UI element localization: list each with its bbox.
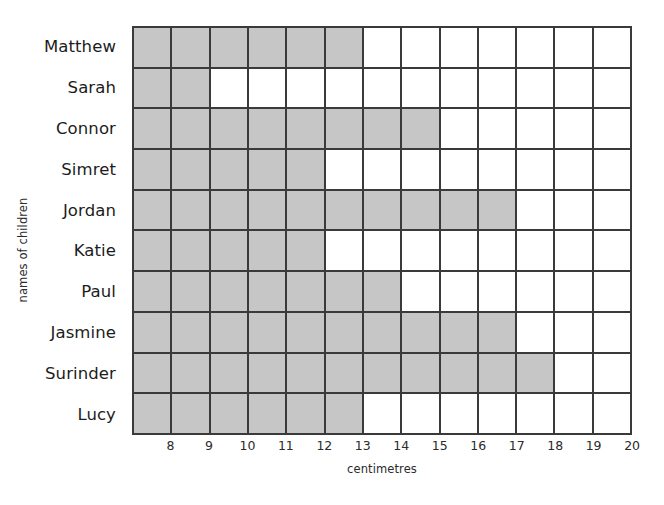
bar-segment-cell	[287, 150, 325, 191]
bar-segment-cell	[134, 272, 172, 313]
chart-row	[134, 69, 632, 110]
bar-segment-cell	[287, 394, 325, 435]
bar-segment-cell	[249, 354, 287, 395]
bar-segment-cell	[249, 191, 287, 232]
empty-grid-cell	[402, 69, 440, 110]
x-axis-tick: 20	[594, 438, 632, 458]
bar-segment-cell	[172, 109, 210, 150]
bar-segment-cell	[326, 109, 364, 150]
bar-segment-cell	[134, 191, 172, 232]
bar-segment-cell	[441, 354, 479, 395]
row-label: Sarah	[0, 67, 124, 108]
empty-grid-cell	[517, 69, 555, 110]
empty-grid-cell	[555, 28, 593, 69]
bar-segment-cell	[364, 191, 402, 232]
chart-row	[134, 191, 632, 232]
bar-segment-cell	[364, 313, 402, 354]
empty-grid-cell	[479, 28, 517, 69]
bar-segment-cell	[326, 354, 364, 395]
bar-segment-cell	[287, 231, 325, 272]
x-axis-tick: 8	[132, 438, 170, 458]
bar-segment-cell	[326, 28, 364, 69]
bar-segment-cell	[287, 28, 325, 69]
bar-segment-cell	[402, 191, 440, 232]
empty-grid-cell	[364, 28, 402, 69]
bar-segment-cell	[211, 313, 249, 354]
empty-grid-cell	[594, 313, 632, 354]
empty-grid-cell	[594, 394, 632, 435]
row-label: Simret	[0, 149, 124, 190]
bar-segment-cell	[134, 394, 172, 435]
empty-grid-cell	[479, 150, 517, 191]
bar-segment-cell	[172, 231, 210, 272]
empty-grid-cell	[441, 231, 479, 272]
empty-grid-cell	[517, 313, 555, 354]
empty-grid-cell	[555, 109, 593, 150]
empty-grid-cell	[326, 231, 364, 272]
empty-grid-cell	[441, 150, 479, 191]
bar-segment-cell	[249, 150, 287, 191]
bar-segment-cell	[211, 109, 249, 150]
empty-grid-cell	[479, 69, 517, 110]
empty-grid-cell	[517, 109, 555, 150]
empty-grid-cell	[402, 394, 440, 435]
empty-grid-cell	[364, 231, 402, 272]
bar-segment-cell	[479, 313, 517, 354]
bar-segment-cell	[479, 354, 517, 395]
chart-row	[134, 272, 632, 313]
bar-segment-cell	[134, 313, 172, 354]
empty-grid-cell	[555, 231, 593, 272]
empty-grid-cell	[326, 69, 364, 110]
empty-grid-cell	[517, 272, 555, 313]
bar-segment-cell	[134, 354, 172, 395]
bar-segment-cell	[441, 313, 479, 354]
chart-row	[134, 28, 632, 69]
x-axis-tick: 16	[440, 438, 478, 458]
empty-grid-cell	[479, 272, 517, 313]
empty-grid-cell	[441, 272, 479, 313]
y-axis-category-labels: MatthewSarahConnorSimretJordanKatiePaulJ…	[0, 26, 124, 435]
bar-segment-cell	[441, 191, 479, 232]
empty-grid-cell	[479, 394, 517, 435]
bar-segment-cell	[134, 28, 172, 69]
empty-grid-cell	[441, 28, 479, 69]
empty-grid-cell	[326, 150, 364, 191]
bar-segment-cell	[249, 231, 287, 272]
empty-grid-cell	[441, 394, 479, 435]
bar-segment-cell	[402, 109, 440, 150]
x-axis-tick: 15	[401, 438, 439, 458]
bar-segment-cell	[172, 272, 210, 313]
bar-segment-cell	[172, 191, 210, 232]
bar-segment-cell	[326, 191, 364, 232]
empty-grid-cell	[517, 150, 555, 191]
empty-grid-cell	[517, 191, 555, 232]
empty-grid-cell	[364, 394, 402, 435]
empty-grid-cell	[594, 191, 632, 232]
empty-grid-cell	[555, 150, 593, 191]
row-label: Connor	[0, 108, 124, 149]
bar-segment-cell	[211, 394, 249, 435]
empty-grid-cell	[517, 394, 555, 435]
bar-segment-cell	[326, 394, 364, 435]
bar-segment-cell	[134, 231, 172, 272]
bar-segment-cell	[326, 272, 364, 313]
empty-grid-cell	[594, 28, 632, 69]
bar-segment-cell	[249, 313, 287, 354]
empty-grid-cell	[402, 272, 440, 313]
chart-row	[134, 231, 632, 272]
row-label: Jordan	[0, 190, 124, 231]
bar-segment-cell	[172, 150, 210, 191]
empty-grid-cell	[555, 313, 593, 354]
empty-grid-cell	[517, 28, 555, 69]
x-axis-tick: 18	[517, 438, 555, 458]
x-axis-tick: 9	[170, 438, 208, 458]
x-axis-tick: 12	[286, 438, 324, 458]
bar-segment-cell	[364, 109, 402, 150]
x-axis-tick: 17	[478, 438, 516, 458]
x-axis-tick: 11	[247, 438, 285, 458]
empty-grid-cell	[249, 69, 287, 110]
bar-segment-cell	[249, 28, 287, 69]
bar-segment-cell	[479, 191, 517, 232]
empty-grid-cell	[594, 150, 632, 191]
row-label: Katie	[0, 231, 124, 272]
